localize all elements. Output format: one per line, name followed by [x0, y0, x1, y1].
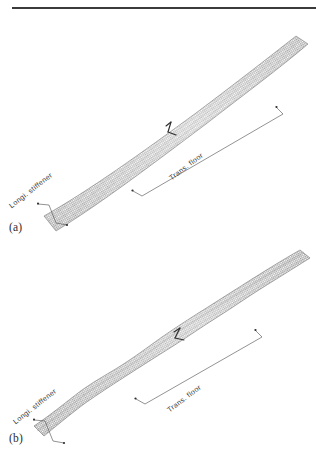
figure-a-drawing	[0, 14, 316, 240]
figure-b-stage: Longi. stiffener Trans. floor (b)	[0, 240, 316, 462]
figure-page: Longi. stiffener Trans. floor (a)	[0, 0, 316, 462]
figure-a: Longi. stiffener Trans. floor (a)	[0, 14, 316, 240]
figure-a-caption: (a)	[9, 221, 22, 233]
figure-b: Longi. stiffener Trans. floor (b)	[0, 240, 316, 462]
panel-a-mesh	[44, 36, 308, 231]
figure-a-stage: Longi. stiffener Trans. floor (a)	[0, 14, 316, 240]
figure-b-caption: (b)	[9, 432, 23, 444]
figure-b-drawing	[0, 240, 316, 462]
page-top-rule	[12, 7, 316, 9]
